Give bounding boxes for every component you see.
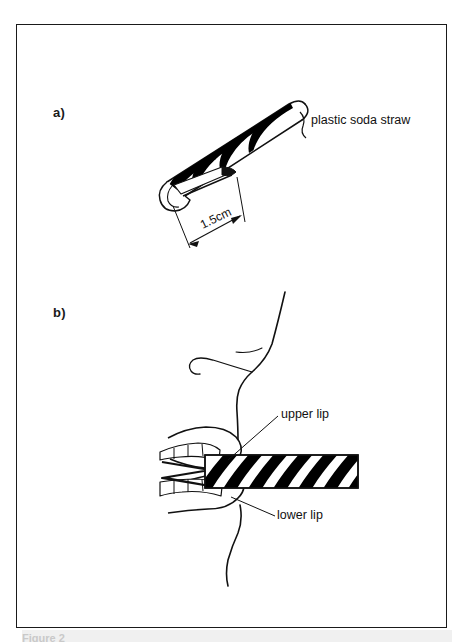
panel-a-label: a): [53, 105, 65, 120]
figure-page: a) b) plastic soda straw 1.5cm upper lip…: [0, 0, 461, 642]
lower-lip-label: lower lip: [277, 508, 323, 522]
upper-lip-label: upper lip: [281, 407, 329, 421]
panel-b-label: b): [53, 305, 66, 320]
figure-caption: Figure 2: [22, 632, 442, 642]
plastic-soda-straw-label: plastic soda straw: [311, 113, 410, 127]
